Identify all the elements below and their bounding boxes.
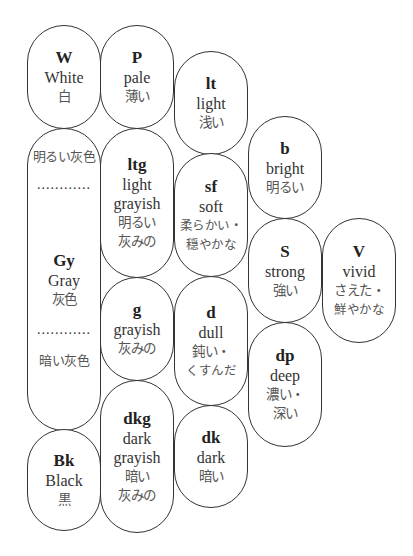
tone-ja: 鮮やかな bbox=[334, 300, 384, 319]
tone-ja: 暗い bbox=[199, 467, 224, 486]
tone-en: White bbox=[44, 68, 83, 87]
tone-b: b bright 明るい bbox=[248, 116, 322, 219]
tone-ja: 薄い bbox=[125, 87, 150, 106]
tone-dp: dp deep 濃い・ 深い bbox=[248, 322, 322, 447]
tone-abbr: dp bbox=[276, 346, 295, 366]
tone-Bk: Bk Black 黒 bbox=[27, 429, 101, 531]
tone-en: strong bbox=[265, 262, 305, 281]
tone-ja: 灰みの bbox=[118, 486, 156, 505]
tone-ja: 明るい bbox=[266, 178, 304, 197]
tone-abbr: sf bbox=[205, 177, 217, 197]
tone-en: dark bbox=[197, 448, 225, 467]
tone-ltg: ltg light grayish 明るい 灰みの bbox=[100, 128, 174, 278]
tone-en: deep bbox=[270, 366, 300, 385]
tone-en: grayish bbox=[113, 448, 160, 467]
tone-en: bright bbox=[266, 159, 304, 178]
tone-dkg: dkg dark grayish 暗い 灰みの bbox=[100, 380, 174, 533]
tone-ja: 灰みの bbox=[118, 232, 156, 251]
tone-en: dark bbox=[123, 429, 151, 448]
tone-ja: 黒 bbox=[58, 490, 71, 509]
tone-ja: 濃い・ bbox=[266, 385, 304, 404]
tone-ja: さえた・ bbox=[334, 281, 384, 300]
tone-ja: 浅い bbox=[199, 113, 224, 132]
tone-ja: 灰色 bbox=[52, 290, 77, 309]
tone-ja: 白 bbox=[58, 87, 71, 106]
tone-en: grayish bbox=[113, 194, 160, 213]
tone-en: Gray bbox=[48, 271, 80, 290]
tone-abbr: dk bbox=[202, 428, 221, 448]
tone-abbr: dkg bbox=[123, 409, 150, 429]
tone-lt: lt light 浅い bbox=[174, 51, 248, 155]
tone-abbr: g bbox=[133, 300, 142, 320]
tone-ja: 強い bbox=[273, 281, 298, 300]
tone-abbr: lt bbox=[206, 74, 216, 94]
tone-en: soft bbox=[199, 197, 223, 216]
tone-ja: 鈍い・ bbox=[192, 342, 230, 361]
tone-abbr: Bk bbox=[54, 451, 75, 471]
tone-en: grayish bbox=[113, 320, 160, 339]
tone-en: light bbox=[122, 175, 151, 194]
tone-abbr: d bbox=[206, 303, 215, 323]
tone-ja: 深い bbox=[273, 404, 298, 423]
divider-dots: ............ bbox=[28, 180, 100, 190]
tone-Gy: 明るい灰色 ............ Gy Gray 灰色 ..........… bbox=[27, 128, 101, 431]
tone-ja: 柔らかい・ bbox=[180, 216, 243, 235]
tone-en: vivid bbox=[343, 262, 376, 281]
tone-en: dull bbox=[199, 323, 224, 342]
tone-ja: 暗い bbox=[125, 467, 150, 486]
tone-en: light bbox=[196, 94, 225, 113]
tone-abbr: ltg bbox=[128, 155, 147, 175]
gy-upper-label: 明るい灰色 bbox=[28, 147, 100, 166]
tone-ja: 灰みの bbox=[118, 339, 156, 358]
tone-S: S strong 強い bbox=[248, 218, 322, 323]
tone-dk: dk dark 暗い bbox=[174, 405, 248, 508]
tone-abbr: P bbox=[132, 48, 142, 68]
tone-ja: くすんだ bbox=[186, 361, 236, 380]
tone-P: P pale 薄い bbox=[100, 25, 174, 129]
gy-lower-label: 暗い灰色 bbox=[28, 351, 100, 370]
tone-abbr: V bbox=[353, 242, 365, 262]
divider-dots: ............ bbox=[28, 325, 100, 335]
tone-V: V vivid さえた・ 鮮やかな bbox=[322, 218, 396, 343]
tone-en: pale bbox=[124, 68, 151, 87]
tone-sf: sf soft 柔らかい・ 穏やかな bbox=[174, 153, 248, 277]
tone-W: W White 白 bbox=[27, 25, 101, 129]
tone-g: g grayish 灰みの bbox=[100, 277, 174, 381]
tone-en: Black bbox=[45, 471, 82, 490]
tone-ja: 穏やかな bbox=[186, 235, 236, 254]
tone-abbr: b bbox=[280, 139, 289, 159]
tone-abbr: Gy bbox=[53, 251, 75, 271]
tone-d: d dull 鈍い・ くすんだ bbox=[174, 276, 248, 406]
tone-abbr: S bbox=[280, 242, 289, 262]
tone-ja: 明るい bbox=[118, 213, 156, 232]
tone-abbr: W bbox=[56, 48, 73, 68]
